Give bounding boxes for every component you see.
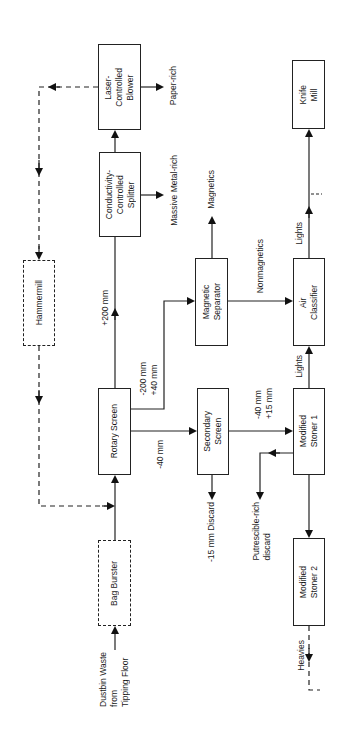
node-label: Hammermill [34,280,45,325]
label-plus-200mm: +200 mm [100,290,111,326]
label-minus15-discard: -15 mm Discard [206,502,217,562]
label-heavies: Heavies [296,640,307,671]
node-label: Conductivity- Controlled Splitter [104,170,137,219]
label-minus40-plus15: -40 mm +15 mm [253,388,275,419]
label-paper-rich: Paper-rich [168,66,179,105]
node-modified-stoner-1: Modified Stoner 1 [293,388,325,475]
label-input: Dustbin Waste from Tipping Floor [98,652,131,707]
node-knife-mill: Knife Mill [292,60,325,129]
node-label: Bag Burster [109,561,120,606]
node-modified-stoner-2: Modified Stoner 2 [293,538,325,626]
label-lights-air: Lights [294,222,305,245]
node-label: Secondary Screen [202,411,224,452]
label-massive-metal-rich: Massive Metal-rich [169,155,180,226]
node-label: Magnetic Separator [201,283,223,320]
label-minus40: -40 mm [155,440,166,469]
node-label: Laser- Controlled Blower [103,68,136,107]
label-nonmagnetics: Nonmagnetics [255,239,266,293]
node-label: Knife Mill [298,85,320,104]
node-hammermill: Hammermill [23,260,55,346]
node-rotary-screen: Rotary Screen [98,388,131,475]
label-putrescible-rich-discard: Putrescible-rich discard [251,502,273,561]
node-bag-burster: Bag Burster [98,540,131,626]
label-magnetics: Magnetics [206,170,217,209]
node-label: Modified Stoner 1 [298,415,320,447]
node-conductivity-controlled-splitter: Conductivity- Controlled Splitter [99,152,141,237]
node-label: Modified Stoner 2 [298,566,320,598]
node-laser-controlled-blower: Laser- Controlled Blower [98,44,141,130]
node-label: Air Classifier [298,285,320,320]
label-lights-stoner: Lights [294,355,305,378]
node-secondary-screen: Secondary Screen [197,388,229,475]
node-magnetic-separator: Magnetic Separator [195,258,228,346]
label-minus200-plus40: -200 mm +40 mm [138,362,160,396]
node-label: Rotary Screen [109,404,120,458]
node-air-classifier: Air Classifier [293,258,325,346]
